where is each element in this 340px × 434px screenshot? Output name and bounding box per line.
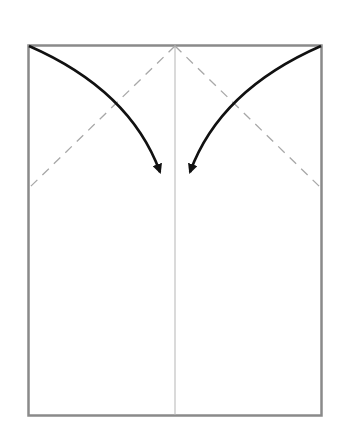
origami-diagram: [0, 0, 340, 434]
